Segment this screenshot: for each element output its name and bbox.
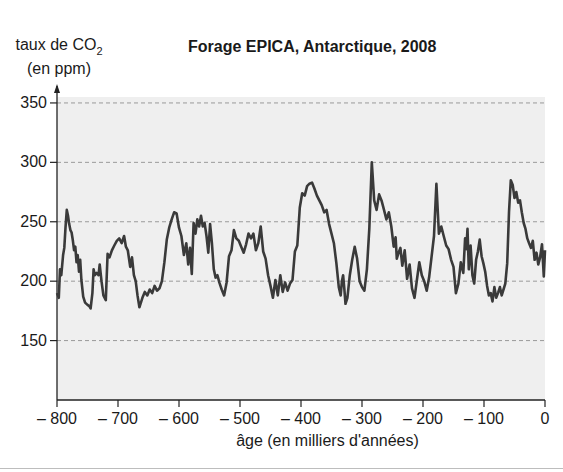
chart-plot: 150200250300350 – 800– 700– 600– 500– 40… [0,0,563,472]
x-tick-label: – 200 [403,410,443,427]
y-axis-arrow-icon [54,84,60,93]
x-tick-label: – 400 [281,410,321,427]
y-tick-label: 150 [20,332,47,349]
x-tick-label: – 700 [98,410,138,427]
y-tick-label: 250 [20,213,47,230]
x-axis-label: âge (en milliers d'années) [46,432,563,450]
divider [0,468,563,469]
y-tick-label: 200 [20,272,47,289]
x-tick-label: – 100 [464,410,504,427]
y-axis: 150200250300350 [20,84,60,400]
x-axis: – 800– 700– 600– 500– 400– 300– 200– 100… [37,400,550,427]
x-tick-label: – 800 [37,410,77,427]
y-tick-label: 350 [20,94,47,111]
x-tick-label: 0 [541,410,550,427]
x-tick-label: – 500 [220,410,260,427]
x-tick-label: – 300 [342,410,382,427]
y-tick-label: 300 [20,153,47,170]
x-tick-label: – 600 [159,410,199,427]
